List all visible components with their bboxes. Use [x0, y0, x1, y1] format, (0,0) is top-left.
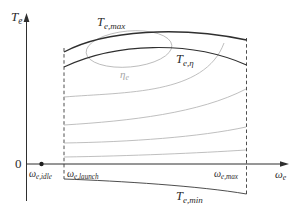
te-eta-curve — [64, 48, 247, 67]
efficiency-contour-3 — [64, 127, 246, 143]
idle-point-dot — [39, 162, 43, 166]
te-min-curve-label: Te,min — [176, 189, 203, 205]
efficiency-contour-label: ηe — [120, 68, 129, 82]
efficiency-contour-4 — [64, 150, 246, 157]
idle-speed-label: ωe,idle — [29, 168, 53, 181]
te-max-curve — [64, 32, 247, 52]
te-max-curve-label: Te,max — [97, 15, 125, 31]
x-axis-arrowhead-icon — [280, 161, 289, 167]
max-speed-label: ωe,max — [214, 168, 239, 181]
efficiency-contour-2 — [64, 89, 246, 125]
figure-canvas: Te 0 ωe,idle ωe,launch ωe,max ωe Te,max … — [0, 0, 302, 211]
y-axis-arrowhead-icon — [24, 13, 30, 22]
x-axis-label: ωe — [275, 168, 287, 182]
origin-label: 0 — [15, 156, 22, 171]
engine-operating-map-figure: Te 0 ωe,idle ωe,launch ωe,max ωe Te,max … — [0, 0, 302, 211]
te-min-curve — [64, 179, 247, 194]
te-eta-curve-label: Te,η — [176, 52, 194, 68]
y-axis-label: Te — [11, 9, 22, 26]
